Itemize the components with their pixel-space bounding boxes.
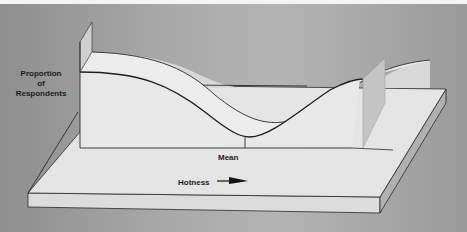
y-axis-label-line-3: Respondents <box>8 89 74 99</box>
mean-label: Mean <box>218 153 238 163</box>
diagram-canvas: Proportion of Respondents Mean Hotness <box>0 0 467 232</box>
distribution-3d-illustration <box>0 0 467 232</box>
hotness-label: Hotness <box>178 178 210 188</box>
y-axis-label-line-2: of <box>8 79 74 89</box>
y-axis-label-line-1: Proportion <box>8 69 74 79</box>
y-axis-label: Proportion of Respondents <box>8 69 74 99</box>
